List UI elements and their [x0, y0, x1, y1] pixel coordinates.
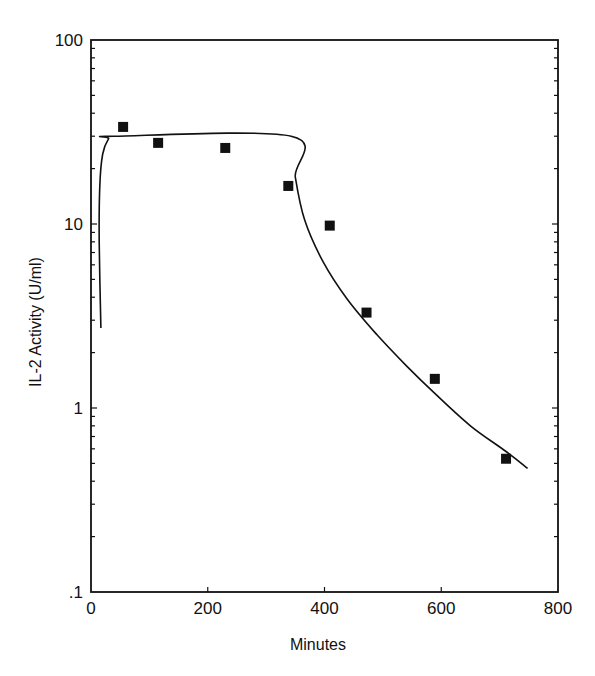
y-axis-title: IL-2 Activity (U/ml)	[27, 257, 44, 387]
chart: 0200400600800.1110100 Minutes IL-2 Activ…	[0, 0, 595, 676]
x-tick-label: 600	[427, 599, 455, 618]
axis-ticks	[91, 48, 558, 592]
data-point-marker	[362, 308, 372, 318]
data-point-marker	[153, 138, 163, 148]
x-tick-label: 200	[194, 599, 222, 618]
data-point-marker	[220, 143, 230, 153]
axis-tick-labels: 0200400600800.1110100	[55, 31, 573, 618]
y-tick-label: 1	[74, 399, 83, 418]
x-tick-label: 800	[544, 599, 572, 618]
data-point-marker	[325, 221, 335, 231]
x-tick-label: 400	[310, 599, 338, 618]
y-tick-label: 100	[55, 31, 83, 50]
y-tick-label: 10	[64, 215, 83, 234]
data-point-marker	[283, 181, 293, 191]
model-fit-line	[99, 133, 527, 468]
y-tick-label: .1	[69, 583, 83, 602]
data-point-marker	[501, 454, 511, 464]
data-point-marker	[430, 374, 440, 384]
x-axis-title: Minutes	[290, 636, 346, 653]
plot-frame	[91, 40, 558, 592]
data-markers	[118, 122, 511, 464]
x-tick-label: 0	[86, 599, 95, 618]
data-point-marker	[118, 122, 128, 132]
